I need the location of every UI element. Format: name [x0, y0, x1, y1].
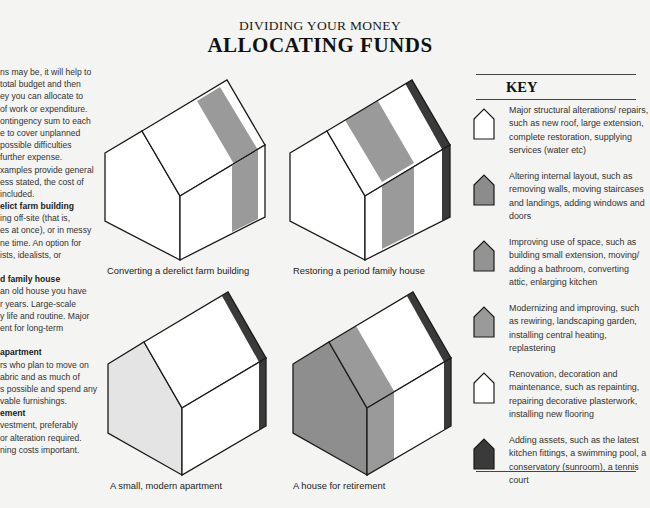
body-text-line: ess stated, the cost of [0, 176, 112, 188]
gray-house-icon [472, 306, 496, 338]
house-diagram-retirement-house [285, 280, 475, 480]
key-panel: KEY Major structural alterations/ repair… [476, 74, 638, 430]
house-caption: A house for retirement [293, 480, 385, 491]
body-text-line: ns may be, it will help to [0, 66, 112, 78]
body-text-line: ey you can allocate to [0, 90, 112, 102]
body-text-line: ists, idealists, or [0, 249, 112, 261]
body-text-line: possible difficulties [0, 139, 112, 151]
house-diagram-farm-building [100, 50, 290, 265]
house-caption: Converting a derelict farm building [107, 265, 249, 276]
body-text-line: es at once), or in messy [0, 224, 112, 236]
body-text-line [0, 261, 112, 273]
body-text-line: ontingency sum to each [0, 115, 112, 127]
section-heading: d family house [0, 273, 112, 285]
body-text-line: ent for long-term [0, 322, 112, 334]
white-house-icon [472, 108, 496, 140]
key-item-description: Improving use of space, such as building… [509, 236, 649, 290]
body-text-line: of work or expenditure. [0, 103, 112, 115]
body-text-line: ne time. An option for [0, 237, 112, 249]
dark-house-icon [472, 438, 496, 470]
body-text-line: further expense. [0, 151, 112, 163]
intro-text-column: ns may be, it will help tototal budget a… [0, 66, 112, 456]
body-text-line: an old house you have [0, 285, 112, 297]
page-subtitle: DIVIDING YOUR MONEY [190, 18, 450, 34]
key-item-description: Major structural alterations/ repairs, s… [509, 104, 649, 158]
body-text-line [0, 334, 112, 346]
house-diagram-period-house [285, 50, 475, 265]
body-text-line: abric and as much of [0, 371, 112, 383]
key-item-description: Modernizing and improving, such as rewir… [509, 302, 649, 356]
key-item-description: Renovation, decoration and maintenance, … [509, 368, 649, 422]
section-heading: elict farm building [0, 200, 112, 212]
body-text-line: s possible and spend any [0, 383, 112, 395]
section-heading: apartment [0, 346, 112, 358]
body-text-line: total budget and then [0, 78, 112, 90]
key-bottom-rule [476, 471, 636, 472]
house-diagram-modern-apartment [100, 280, 290, 480]
body-text-line: ing off-site (that is, [0, 212, 112, 224]
body-text-line: r years. Large-scale [0, 298, 112, 310]
white-house-icon [472, 372, 496, 404]
gray-house-icon [472, 240, 496, 272]
section-heading: ement [0, 407, 112, 419]
body-text-line: rs who plan to move on [0, 359, 112, 371]
body-text-line: included. [0, 188, 112, 200]
house-caption: Restoring a period family house [293, 265, 425, 276]
body-text-line: vable furnishings. [0, 395, 112, 407]
key-title: KEY [476, 75, 638, 99]
key-item-description: Adding assets, such as the latest kitche… [509, 434, 649, 488]
key-items: Major structural alterations/ repairs, s… [476, 100, 638, 430]
gray-house-icon [472, 174, 496, 206]
body-text-line: e to cover unplanned [0, 127, 112, 139]
key-item-description: Altering internal layout, such as removi… [509, 170, 649, 224]
body-text-line: ning costs important. [0, 444, 112, 456]
body-text-line: y life and routine. Major [0, 310, 112, 322]
body-text-line: xamples provide general [0, 164, 112, 176]
body-text-line: or alteration required. [0, 432, 112, 444]
body-text-line: vestment, preferably [0, 419, 112, 431]
house-caption: A small, modern apartment [110, 480, 222, 491]
